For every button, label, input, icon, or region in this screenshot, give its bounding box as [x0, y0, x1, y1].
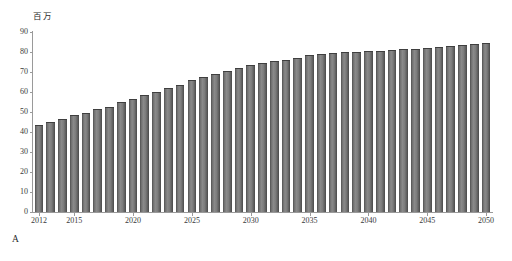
- bar: [305, 55, 314, 212]
- bar: [388, 50, 397, 212]
- bar: [376, 51, 385, 212]
- bar: [341, 52, 350, 212]
- chart-figure: 百万 0102030405060708090 20122015202020252…: [0, 0, 512, 261]
- x-axis-tick-label: 2030: [243, 217, 259, 225]
- bar: [458, 45, 467, 212]
- bar: [223, 71, 232, 212]
- bar: [93, 109, 102, 212]
- bar: [364, 51, 373, 212]
- bar: [129, 99, 138, 212]
- bar: [188, 80, 197, 212]
- y-axis-tick-mark: [30, 212, 33, 213]
- bar: [164, 88, 173, 212]
- bar: [411, 49, 420, 212]
- bar: [470, 44, 479, 212]
- x-axis-tick-label: 2045: [419, 217, 435, 225]
- x-axis-tick-label: 2012: [31, 217, 47, 225]
- bar: [352, 52, 361, 212]
- bar: [435, 47, 444, 212]
- bar: [152, 92, 161, 212]
- bar: [317, 54, 326, 212]
- bar: [246, 65, 255, 212]
- bar: [70, 115, 79, 212]
- bar: [446, 46, 455, 212]
- bar: [176, 85, 185, 212]
- bar: [482, 43, 491, 212]
- bar: [199, 77, 208, 212]
- x-axis-tick-label: 2040: [360, 217, 376, 225]
- bar: [282, 60, 291, 212]
- bar: [270, 61, 279, 212]
- x-axis-tick-label: 2050: [478, 217, 494, 225]
- bar: [82, 113, 91, 212]
- panel-label: A: [12, 235, 19, 245]
- y-axis-unit-label: 百万: [33, 9, 52, 21]
- bar: [258, 63, 267, 212]
- bar: [329, 53, 338, 212]
- bar: [35, 125, 44, 212]
- bar: [58, 119, 67, 212]
- plot-area: [33, 32, 492, 212]
- bar: [117, 102, 126, 212]
- bar: [140, 95, 149, 212]
- bar: [211, 74, 220, 212]
- x-axis-tick-label: 2035: [302, 217, 318, 225]
- x-axis-tick-label: 2025: [184, 217, 200, 225]
- bar: [293, 58, 302, 212]
- x-axis-line: [32, 212, 493, 213]
- bar: [105, 107, 114, 212]
- bar: [46, 122, 55, 212]
- bar: [423, 48, 432, 212]
- x-axis-tick-label: 2015: [66, 217, 82, 225]
- bar: [399, 49, 408, 212]
- bar: [235, 68, 244, 212]
- x-axis-tick-label: 2020: [125, 217, 141, 225]
